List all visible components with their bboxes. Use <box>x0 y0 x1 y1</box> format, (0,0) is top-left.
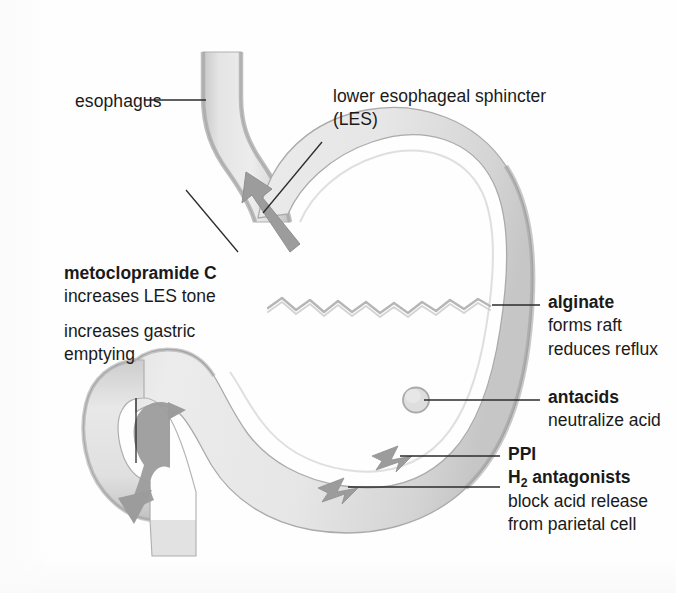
label-lower-esophageal-sphincter: lower esophageal sphincter (LES) <box>333 85 546 132</box>
gastric-emptying-arrow-downward <box>118 402 186 524</box>
metoclopramide-effect-2: increases gastric <box>64 320 217 343</box>
drug-block-metoclopramide: metoclopramide C increases LES tone incr… <box>64 262 217 366</box>
h2-suffix: antagonists <box>527 467 630 487</box>
drug-block-acid-suppression: PPI H2 antagonists block acid release fr… <box>508 443 648 536</box>
label-esophagus: esophagus <box>75 90 162 113</box>
les-line-2: (LES) <box>333 108 546 131</box>
alginate-effect-2: reduces reflux <box>548 338 658 361</box>
antacids-heading: antacids <box>548 386 661 409</box>
metoclopramide-heading: metoclopramide C <box>64 262 217 285</box>
alginate-raft-zigzag <box>268 298 490 317</box>
drug-block-alginate: alginate forms raft reduces reflux <box>548 291 658 361</box>
acid-suppression-effect-1: block acid release <box>508 490 648 513</box>
h2-antagonists-heading: H2 antagonists <box>508 466 648 489</box>
leader-metoclopramide <box>186 190 238 252</box>
ppi-heading: PPI <box>508 443 648 466</box>
h2-subscript: 2 <box>521 476 528 490</box>
drug-block-antacids: antacids neutralize acid <box>548 386 661 433</box>
metoclopramide-effect-1: increases LES tone <box>64 285 217 308</box>
diagram-canvas: esophagus lower esophageal sphincter (LE… <box>0 0 676 593</box>
alginate-effect-1: forms raft <box>548 314 658 337</box>
metoclopramide-effect-3: emptying <box>64 343 217 366</box>
les-line-1: lower esophageal sphincter <box>333 85 546 108</box>
alginate-heading: alginate <box>548 291 658 314</box>
h2-prefix: H <box>508 467 521 487</box>
antacids-effect-1: neutralize acid <box>548 409 661 432</box>
acid-suppression-effect-2: from parietal cell <box>508 513 648 536</box>
